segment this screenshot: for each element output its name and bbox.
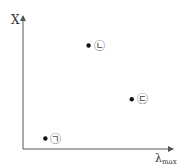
data-point-label-1: ㉢ xyxy=(137,93,148,106)
scatter-chart: X λmax ㉡㉢㉠ xyxy=(0,0,182,166)
data-point-1 xyxy=(130,97,134,101)
data-point-2 xyxy=(43,136,47,140)
data-point-label-2: ㉠ xyxy=(50,133,61,146)
x-axis-label: λmax xyxy=(155,152,177,166)
data-point-label-0: ㉡ xyxy=(94,40,105,53)
points-group: ㉡㉢㉠ xyxy=(43,40,148,146)
x-axis-label-main: λ xyxy=(155,152,162,165)
y-axis-label: X xyxy=(11,13,20,27)
data-point-0 xyxy=(86,43,90,47)
x-axis-label-sub: max xyxy=(162,158,177,166)
